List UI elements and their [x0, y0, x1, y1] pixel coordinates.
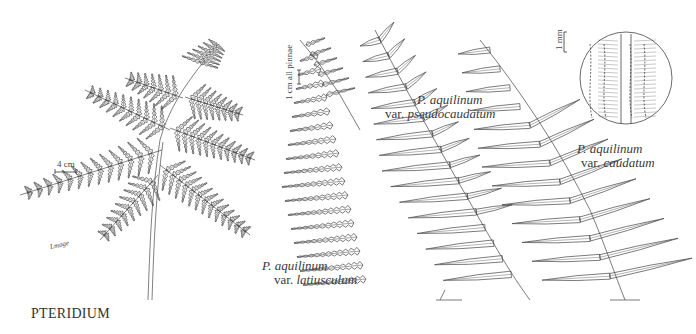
pinna-midrib — [306, 38, 325, 45]
scale-label-4cm: 4 cm — [57, 159, 75, 169]
stipe-base — [440, 290, 445, 300]
pinna-midrib — [179, 172, 196, 180]
pinna-midrib — [141, 195, 147, 211]
pinna-outline — [366, 68, 399, 77]
pinna-midrib — [381, 134, 433, 140]
pinna-midrib — [384, 149, 441, 155]
pinna-midrib — [135, 201, 141, 216]
pinna-midrib — [441, 139, 467, 149]
pinna-midrib — [318, 68, 343, 75]
pinna-midrib — [387, 165, 450, 171]
pinna-outline — [435, 256, 503, 265]
pinna-midrib — [133, 119, 147, 130]
pinna-outline — [417, 224, 485, 233]
pinna-midrib — [310, 48, 331, 55]
pinna-midrib — [600, 240, 672, 257]
pinna-midrib — [440, 259, 503, 265]
pinna-midrib — [182, 56, 200, 62]
pinna-midrib — [431, 243, 494, 249]
pinna-midrib — [298, 69, 321, 75]
caption-caudatum: P. aquilinum var. caudatum — [577, 142, 655, 170]
pinna-midrib — [322, 78, 349, 85]
pinna-midrib — [396, 181, 459, 187]
genus-title: PTERIDIUM — [31, 306, 110, 322]
pinna-outline — [589, 218, 664, 241]
pinna-outline — [408, 209, 476, 218]
frond-drawing-pseudocaudatum — [360, 22, 530, 300]
pinna-midrib — [146, 188, 153, 206]
species-name: P. aquilinum — [577, 141, 643, 156]
pinna-midrib — [126, 115, 139, 125]
pinna-midrib — [371, 87, 406, 93]
pinna-midrib — [610, 260, 685, 277]
pinna-midrib — [100, 154, 112, 166]
magnified-detail-inset — [580, 32, 672, 124]
pinna-outline — [426, 240, 494, 249]
pinna-midrib — [211, 199, 223, 205]
pinna-midrib — [365, 56, 389, 62]
pinna-outline — [391, 177, 459, 186]
scale-label-1mm: 1 mm — [554, 29, 564, 50]
pinna-midrib — [109, 150, 121, 163]
pinna-outline — [529, 99, 580, 127]
pinnae-drawing-pseudocaudatum-left — [282, 38, 366, 286]
scale-bar-pinnae — [297, 70, 301, 84]
pinna-midrib — [570, 181, 631, 201]
variety-prefix: var. — [385, 106, 404, 121]
pinna-outline — [609, 258, 692, 279]
pinna-outline — [431, 122, 458, 136]
pinna-midrib — [199, 188, 213, 195]
pinna-midrib — [173, 167, 191, 175]
rachis — [300, 40, 360, 130]
pinna-midrib — [138, 156, 141, 176]
pinna-outline — [599, 238, 678, 260]
pinna-outline — [382, 162, 450, 171]
variety-name: pseudocaudatum — [407, 106, 495, 121]
pinna-midrib — [284, 167, 342, 173]
pinna-midrib — [389, 40, 404, 56]
pinna-midrib — [292, 111, 330, 117]
pinna-midrib — [192, 183, 207, 190]
pinna-midrib — [294, 97, 327, 103]
pinna-midrib — [129, 160, 132, 178]
pinna-midrib — [380, 23, 393, 40]
pinna-midrib — [398, 57, 415, 72]
pinna-outline — [368, 84, 406, 93]
pinna-outline — [443, 271, 511, 280]
pinna-outline — [569, 179, 636, 203]
scale-bar-1mm — [564, 32, 567, 52]
pinna-midrib — [368, 71, 397, 77]
variety-name: latiusculum — [296, 272, 357, 287]
pinna-midrib — [450, 156, 478, 165]
pinna-midrib — [189, 190, 192, 206]
caption-pseudocaudatum: P. aquilinum var. pseudocaudatum — [385, 93, 496, 121]
pinna-outline — [400, 193, 468, 202]
pinna-outline — [440, 138, 469, 151]
pinna-outline — [458, 172, 491, 184]
caption-latiusculum: P. aquilinum var. latiusculum — [262, 259, 357, 287]
pinna-midrib — [166, 161, 185, 170]
pinna-midrib — [90, 158, 101, 169]
variety-prefix: var. — [581, 155, 600, 170]
pinna-midrib — [590, 220, 658, 238]
pinna-midrib — [422, 228, 485, 234]
pinna-midrib — [406, 73, 424, 87]
scale-label-pinnae: 1 cm all pinnae — [284, 45, 294, 100]
variety-prefix: var. — [274, 272, 293, 287]
pinna-midrib — [150, 91, 162, 102]
pinna-midrib — [205, 194, 218, 200]
pinna-outline — [467, 188, 502, 199]
pinna-midrib — [433, 123, 457, 134]
pinna-midrib — [198, 101, 201, 119]
scale-bar-4cm — [55, 169, 76, 174]
pinna-midrib — [326, 88, 355, 95]
species-name: P. aquilinum — [417, 92, 483, 107]
inset-border — [580, 32, 672, 124]
pinna-midrib — [196, 195, 199, 210]
pinna-midrib — [530, 101, 576, 125]
pinna-outline — [449, 155, 480, 167]
variety-name: caudatum — [603, 155, 654, 170]
pinna-outline — [476, 205, 512, 215]
pinna-midrib — [182, 185, 185, 202]
pinna-midrib — [414, 212, 477, 218]
